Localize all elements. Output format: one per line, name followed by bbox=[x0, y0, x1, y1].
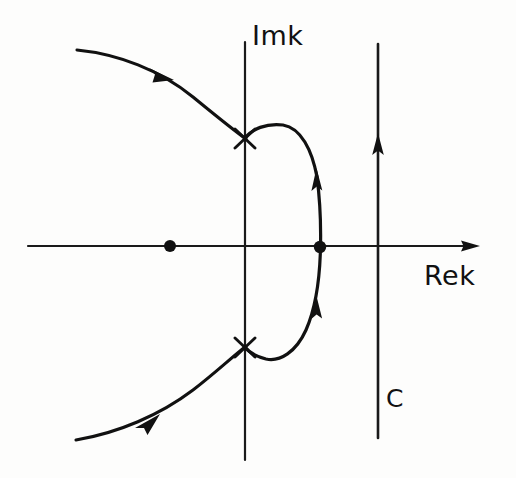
axes-group bbox=[28, 42, 480, 460]
real-axis-label: Rek bbox=[424, 262, 475, 289]
incoming-branch-upper-left-path bbox=[77, 50, 246, 139]
loop-upper-half-path bbox=[245, 125, 321, 247]
loop-lower-half-path bbox=[245, 247, 321, 360]
incoming-branch-lower-left-path bbox=[76, 347, 245, 440]
complex-plane-figure: Imk Rek C bbox=[0, 0, 516, 478]
contour-diagram-svg bbox=[0, 0, 516, 478]
contour-c-label: C bbox=[386, 386, 403, 411]
contour-c-group bbox=[372, 44, 384, 438]
pole-negative-real-dot-icon bbox=[164, 240, 176, 252]
imaginary-axis-label: Imk bbox=[252, 22, 303, 49]
pole-positive-real-dot-icon bbox=[314, 241, 326, 253]
real-axis-arrowhead-icon bbox=[461, 241, 480, 252]
incoming-branch-upper-left-arrowhead-icon bbox=[149, 68, 174, 83]
